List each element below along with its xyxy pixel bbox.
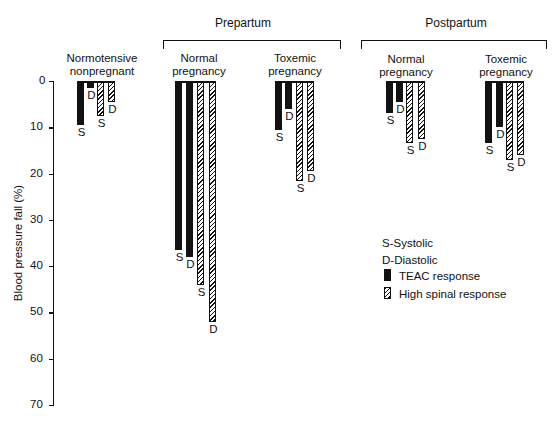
- y-tick: [49, 266, 54, 267]
- y-tick-label: 0: [39, 74, 45, 87]
- legend-teac-swatch: [384, 269, 391, 281]
- bar-label-systolic: S: [387, 114, 395, 126]
- bar-label-diastolic: D: [285, 110, 293, 122]
- prepartum-bracket: [163, 40, 341, 49]
- group-heading-postpartum-toxemic-line2: pregnancy: [479, 66, 533, 79]
- group-heading-postpartum-toxemic-line1: Toxemic: [485, 53, 527, 66]
- group-top-line: [175, 81, 216, 83]
- legend-spinal: High spinal response: [399, 288, 506, 301]
- spinal-systolic-bar: [97, 81, 104, 116]
- teac-diastolic-bar: [186, 81, 193, 257]
- y-tick: [49, 220, 54, 221]
- postpartum-bracket: [361, 40, 547, 49]
- bar-label-diastolic: D: [517, 156, 525, 168]
- teac-diastolic-bar: [285, 81, 292, 109]
- bar-label-systolic: S: [198, 286, 206, 298]
- y-tick: [49, 405, 54, 406]
- postpartum-heading: Postpartum: [425, 17, 486, 30]
- teac-systolic-bar: [175, 81, 182, 250]
- spinal-diastolic-bar: [418, 81, 425, 139]
- y-tick-label: 20: [30, 167, 43, 180]
- bar-label-systolic: S: [297, 182, 305, 194]
- group-top-line: [485, 81, 524, 83]
- bar-label-diastolic: D: [108, 103, 116, 115]
- bar-label-systolic: S: [98, 117, 106, 129]
- spinal-systolic-bar: [296, 81, 303, 181]
- bar-label-systolic: S: [486, 144, 494, 156]
- spinal-systolic-bar: [406, 81, 413, 143]
- y-tick-label: 30: [30, 213, 43, 226]
- bar-label-diastolic: D: [418, 140, 426, 152]
- spinal-diastolic-bar: [108, 81, 115, 102]
- bar-label-systolic: S: [507, 161, 515, 173]
- spinal-diastolic-bar: [517, 81, 524, 155]
- y-tick-label: 70: [30, 398, 43, 411]
- bar-label-systolic: S: [276, 131, 284, 143]
- chart: 010203040506070 Blood pressure fall (%) …: [0, 0, 558, 424]
- y-tick-label: 40: [30, 259, 43, 272]
- y-axis-line: [53, 81, 54, 406]
- y-tick: [49, 81, 54, 82]
- y-tick: [49, 127, 54, 128]
- bar-label-diastolic: D: [87, 89, 95, 101]
- bar-label-diastolic: D: [396, 103, 404, 115]
- prepartum-heading: Prepartum: [215, 17, 271, 30]
- bar-label-diastolic: D: [307, 172, 315, 184]
- group-heading-postpartum-normal-line1: Normal: [387, 53, 424, 66]
- bar-label-diastolic: D: [496, 128, 504, 140]
- legend-spinal-swatch: [384, 287, 391, 299]
- group-top-line: [386, 81, 425, 83]
- legend-systolic: S-Systolic: [382, 237, 433, 250]
- group-heading-prepartum-toxemic-line1: Toxemic: [274, 52, 316, 65]
- group-heading-postpartum-normal-line2: pregnancy: [379, 66, 433, 79]
- y-tick: [49, 174, 54, 175]
- teac-systolic-bar: [77, 81, 84, 125]
- group-heading-prepartum-normal-line1: Normal: [180, 52, 217, 65]
- spinal-systolic-bar: [197, 81, 204, 285]
- teac-systolic-bar: [275, 81, 282, 130]
- group-top-line: [275, 81, 314, 83]
- teac-systolic-bar: [386, 81, 393, 113]
- bar-label-systolic: S: [78, 126, 86, 138]
- bar-label-diastolic: D: [209, 323, 217, 335]
- y-tick-label: 60: [30, 352, 43, 365]
- y-tick: [49, 312, 54, 313]
- spinal-systolic-bar: [506, 81, 513, 160]
- teac-systolic-bar: [485, 81, 492, 143]
- bar-label-diastolic: D: [186, 258, 194, 270]
- group-top-line: [77, 81, 115, 83]
- y-tick-label: 50: [30, 305, 43, 318]
- spinal-diastolic-bar: [307, 81, 314, 171]
- bar-label-systolic: S: [176, 251, 184, 263]
- bar-label-systolic: S: [407, 144, 415, 156]
- group-heading-normotensive-line1: Normotensive: [67, 52, 138, 65]
- teac-diastolic-bar: [396, 81, 403, 102]
- group-heading-prepartum-normal-line2: pregnancy: [172, 65, 226, 78]
- group-heading-prepartum-toxemic-line2: pregnancy: [268, 65, 322, 78]
- y-tick: [49, 359, 54, 360]
- y-axis-label: Blood pressure fall (%): [12, 185, 25, 301]
- spinal-diastolic-bar: [209, 81, 216, 322]
- teac-diastolic-bar: [496, 81, 503, 127]
- legend-teac: TEAC response: [399, 270, 480, 283]
- group-heading-normotensive-line2: nonpregnant: [70, 65, 135, 78]
- legend-diastolic: D-Diastolic: [382, 254, 438, 267]
- y-tick-label: 10: [30, 120, 43, 133]
